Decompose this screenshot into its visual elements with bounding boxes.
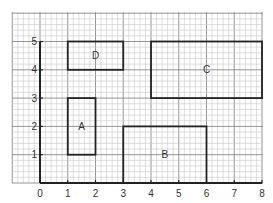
y-tick-label: 4 xyxy=(31,64,37,75)
coordinate-grid-diagram: ABCD 01234567812345 xyxy=(0,0,273,203)
rectangle-label: D xyxy=(92,50,99,61)
x-tick-label: 5 xyxy=(176,188,182,199)
x-tick-label: 2 xyxy=(93,188,99,199)
y-tick-label: 3 xyxy=(31,93,37,104)
x-tick-label: 4 xyxy=(148,188,154,199)
y-tick-label: 2 xyxy=(31,121,37,132)
y-tick-label: 1 xyxy=(31,149,37,160)
x-tick-label: 0 xyxy=(37,188,43,199)
rectangles: ABCD xyxy=(68,42,262,184)
x-tick-label: 8 xyxy=(259,188,265,199)
rectangle-label: A xyxy=(78,121,85,132)
tick-labels: 01234567812345 xyxy=(31,36,265,199)
x-tick-label: 7 xyxy=(231,188,237,199)
y-tick-label: 5 xyxy=(31,36,37,47)
x-tick-label: 3 xyxy=(120,188,126,199)
rectangle-label: B xyxy=(162,149,169,160)
rectangle-label: C xyxy=(203,64,210,75)
x-tick-label: 6 xyxy=(204,188,210,199)
x-tick-label: 1 xyxy=(65,188,71,199)
